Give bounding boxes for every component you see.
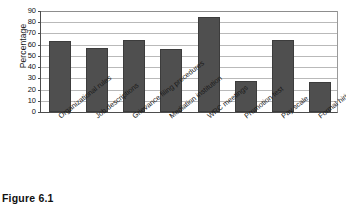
y-axis-tick-mark bbox=[38, 56, 41, 57]
y-axis-tick-mark bbox=[38, 90, 41, 91]
bar[interactable] bbox=[123, 40, 145, 112]
x-axis-category-label: Job descriptions bbox=[94, 114, 99, 120]
y-axis-tick-label: 80 bbox=[16, 19, 36, 27]
x-axis-category-label: Mediation institution bbox=[168, 114, 173, 120]
x-axis-category-label: Formal hiring procedures bbox=[317, 114, 322, 120]
bar-chart: Percentage 9080706050403020100 Organizat… bbox=[0, 0, 346, 182]
x-axis-category-label: Promotion test bbox=[243, 114, 248, 120]
y-axis-tick-label: 20 bbox=[16, 86, 36, 94]
y-axis-tick-label: 70 bbox=[16, 30, 36, 38]
x-axis-category-label: Organizational rules bbox=[57, 114, 62, 120]
y-axis-tick-label: 10 bbox=[16, 97, 36, 105]
bar[interactable] bbox=[272, 40, 294, 112]
y-axis-tick-mark bbox=[38, 78, 41, 79]
y-axis-tick-label: 60 bbox=[16, 41, 36, 49]
y-axis-tick-mark bbox=[38, 33, 41, 34]
bar[interactable] bbox=[49, 41, 71, 112]
x-axis-category-label: Pay scale bbox=[280, 114, 285, 120]
bar-slot bbox=[41, 11, 78, 112]
x-axis-category-label: WRC meetings bbox=[206, 114, 211, 120]
y-axis-tick-mark bbox=[38, 11, 41, 12]
figure-caption: Figure 6.1 bbox=[2, 192, 54, 204]
y-axis-tick-labels: 9080706050403020100 bbox=[16, 10, 36, 113]
x-axis-category-labels: Organizational rulesJob descriptionsGrie… bbox=[40, 114, 346, 182]
y-axis-tick-label: 40 bbox=[16, 64, 36, 72]
x-axis-category-label: Grievance filing procedures bbox=[131, 114, 136, 120]
y-axis-tick-label: 90 bbox=[16, 7, 36, 14]
y-axis-tick-label: 30 bbox=[16, 75, 36, 83]
y-axis-tick-mark bbox=[38, 67, 41, 68]
y-axis-tick-label: 50 bbox=[16, 52, 36, 60]
y-axis-tick-mark bbox=[38, 101, 41, 102]
y-axis-tick-mark bbox=[38, 45, 41, 46]
y-axis-tick-mark bbox=[38, 22, 41, 23]
y-axis-tick-mark bbox=[38, 112, 41, 113]
figure-container: Percentage 9080706050403020100 Organizat… bbox=[0, 0, 346, 214]
y-axis-tick-label: 0 bbox=[16, 108, 36, 116]
